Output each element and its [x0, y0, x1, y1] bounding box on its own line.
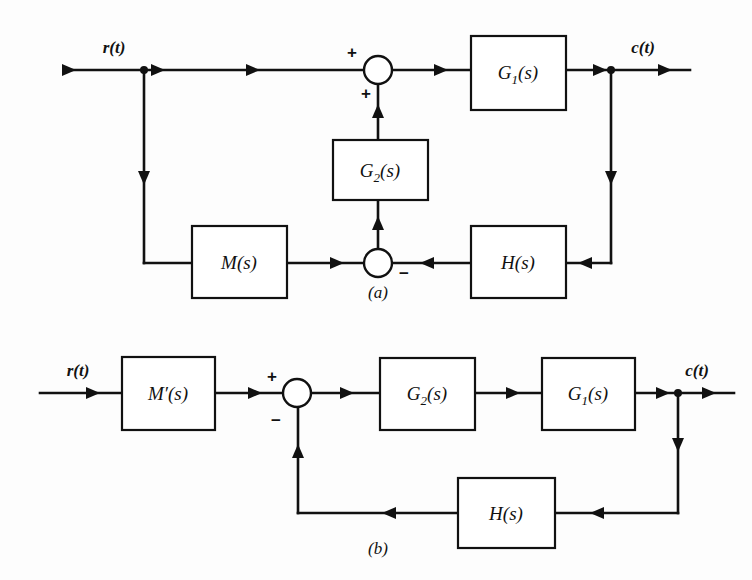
diagram-b: M′(s) G2(s) G1(s) H(s) + − r(t) c: [40, 357, 734, 558]
arrowhead-a-g2-out: [372, 104, 384, 118]
sign-a-bottom-minus: −: [399, 264, 409, 283]
sign-a-top-plus-left: +: [347, 43, 357, 62]
arrowhead-b-to-g1: [506, 387, 520, 399]
signal-label-a-input: r(t): [103, 38, 126, 57]
arrowhead-b-output: [702, 387, 716, 399]
arrowhead-a-into-h: [578, 257, 592, 269]
block-diagram-svg: G1(s) G2(s) M(s) H(s) + + −: [0, 0, 752, 580]
arrowhead-a-g1-out: [593, 64, 607, 76]
arrowhead-b-m-out: [248, 387, 262, 399]
figure-canvas: G1(s) G2(s) M(s) H(s) + + −: [0, 0, 752, 580]
diagram-a: G1(s) G2(s) M(s) H(s) + + −: [62, 36, 690, 302]
signal-label-b-input: r(t): [67, 361, 90, 380]
arrowhead-b-riser-up: [292, 444, 304, 458]
arrowhead-a-input-start: [62, 64, 76, 76]
signal-label-a-output: c(t): [631, 38, 655, 57]
arrowhead-a-c-down: [605, 171, 617, 185]
signal-label-b-output: c(t): [685, 361, 709, 380]
arrowhead-a-m-out: [330, 257, 344, 269]
sign-b-plus: +: [267, 367, 277, 386]
arrowhead-b-input: [86, 387, 100, 399]
block-h-b-label: H(s): [488, 503, 523, 525]
summing-junction-b[interactable]: [283, 379, 311, 407]
sign-b-minus: −: [271, 411, 281, 430]
branch-point-a-output: [607, 66, 615, 74]
arrowhead-b-into-h: [590, 507, 604, 519]
arrowhead-a-to-g1: [434, 64, 448, 76]
arrowhead-b-g1-out: [656, 387, 670, 399]
caption-a: (a): [368, 283, 388, 302]
sign-a-top-plus-below: +: [361, 84, 371, 103]
arrowhead-a-to-g2: [372, 216, 384, 230]
summing-junction-a-bottom[interactable]: [364, 249, 392, 277]
arrowhead-b-c-down: [672, 438, 684, 452]
arrowhead-b-h-out: [382, 507, 396, 519]
summing-junction-a-top[interactable]: [364, 56, 392, 84]
block-mprime-b-label: M′(s): [147, 383, 188, 405]
arrowhead-a-output: [658, 64, 672, 76]
block-h-a-label: H(s): [500, 252, 535, 274]
caption-b: (b): [368, 539, 388, 558]
arrowhead-a-h-out: [420, 257, 434, 269]
arrowhead-b-to-g2: [340, 387, 354, 399]
branch-point-b-output: [674, 389, 682, 397]
arrowhead-a-input: [151, 64, 165, 76]
arrowhead-a-r-down: [138, 171, 150, 185]
branch-point-a-input: [140, 66, 148, 74]
block-m-a-label: M(s): [220, 252, 257, 274]
arrowhead-a-input-mid: [246, 64, 260, 76]
